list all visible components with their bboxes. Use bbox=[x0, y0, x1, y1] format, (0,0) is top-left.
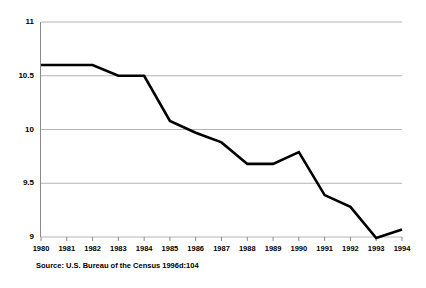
x-axis-tick-labels: 1980198119821983198419851986198719881989… bbox=[33, 244, 412, 253]
y-axis-tick-label: 10 bbox=[25, 125, 34, 134]
x-axis-tick-label: 1993 bbox=[368, 244, 385, 253]
x-axis-tick-label: 1988 bbox=[239, 244, 256, 253]
y-axis-tick-label: 10.5 bbox=[18, 71, 34, 80]
line-chart: 1110.5109.59 198019811982198319841985198… bbox=[0, 0, 426, 288]
x-axis-tick-label: 1981 bbox=[58, 244, 75, 253]
x-axis-tick-label: 1994 bbox=[394, 244, 412, 253]
x-axis-tick-label: 1985 bbox=[162, 244, 179, 253]
y-axis-tick-label: 9.5 bbox=[23, 178, 35, 187]
x-axis-tick-label: 1987 bbox=[213, 244, 230, 253]
x-axis-tick-label: 1989 bbox=[265, 244, 282, 253]
source-note: Source: U.S. Bureau of the Census 1996d:… bbox=[36, 261, 199, 270]
chart-figure: 1110.5109.59 198019811982198319841985198… bbox=[0, 0, 426, 288]
y-axis-tick-label: 9 bbox=[30, 232, 35, 241]
x-axis-tick-label: 1986 bbox=[187, 244, 204, 253]
x-axis-tick-label: 1982 bbox=[84, 244, 101, 253]
x-axis-tick-label: 1984 bbox=[136, 244, 154, 253]
x-axis-tick-label: 1991 bbox=[316, 244, 333, 253]
x-axis-tick-label: 1980 bbox=[33, 244, 50, 253]
x-axis-tick-label: 1992 bbox=[342, 244, 359, 253]
y-axis-tick-label: 11 bbox=[26, 17, 35, 26]
x-axis-tick-label: 1983 bbox=[110, 244, 127, 253]
x-axis-tick-label: 1990 bbox=[291, 244, 308, 253]
